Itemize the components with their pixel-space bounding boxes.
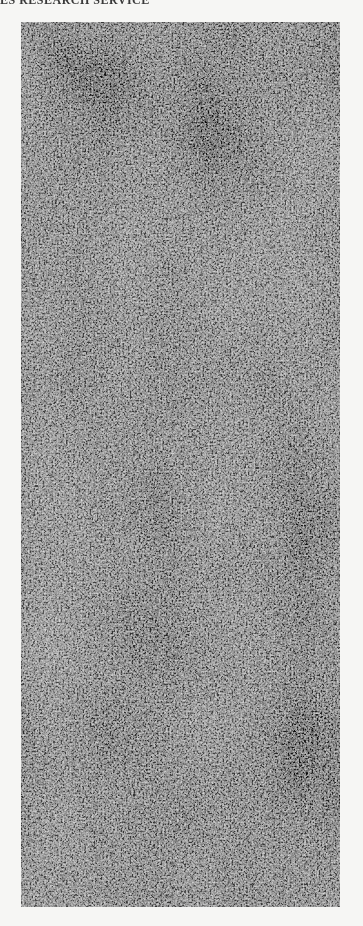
figure-filament-texture <box>21 22 340 907</box>
filament-texture-image <box>21 22 340 907</box>
page-header-text: ES RESEARCH SERVICE <box>0 0 220 7</box>
